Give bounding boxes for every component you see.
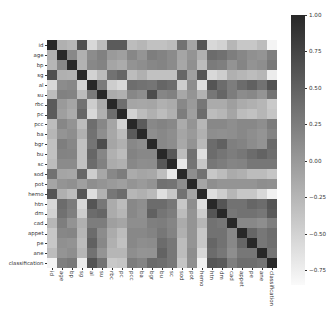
heatmap-cell [187,179,197,189]
heatmap-cell [147,149,157,159]
heatmap-cell [257,228,267,238]
heatmap-cell [97,218,107,228]
heatmap-cell [227,109,237,119]
heatmap-cell [67,70,77,80]
heatmap-cell [197,179,207,189]
heatmap-cell [167,248,177,258]
heatmap-cell [167,209,177,219]
heatmap-cell [187,99,197,109]
heatmap-cell [187,60,197,70]
heatmap-cell [257,258,267,268]
colorbar-tick-mark [305,15,307,16]
x-tick-mark [62,268,63,270]
heatmap-cell [167,228,177,238]
heatmap-cell [267,60,277,70]
heatmap-cell [217,169,227,179]
heatmap-cell [147,159,157,169]
heatmap-cell [177,189,187,199]
heatmap-cell [197,209,207,219]
heatmap-cell [57,60,67,70]
heatmap-cell [107,179,117,189]
heatmap-cell [227,149,237,159]
heatmap-cell [127,50,137,60]
y-tick-label: pot [35,181,47,187]
heatmap-cell [137,119,147,129]
y-tick-label: pcc [34,121,47,127]
heatmap-cell [217,70,227,80]
heatmap-cell [217,189,227,199]
heatmap-cell [137,238,147,248]
heatmap-cell [157,199,167,209]
heatmap-cell [57,80,67,90]
heatmap-cell [87,179,97,189]
heatmap-cell [157,238,167,248]
heatmap-cell [177,218,187,228]
heatmap-cell [47,209,57,219]
heatmap-cell [107,129,117,139]
heatmap-cell [167,40,177,50]
heatmap-cell [47,70,57,80]
heatmap-cell [57,218,67,228]
heatmap-cell [267,199,277,209]
heatmap-cell [237,149,247,159]
y-tick-label: bp [37,62,47,68]
colorbar-tick-mark [305,88,307,89]
heatmap-cell [137,209,147,219]
heatmap-cell [267,40,277,50]
heatmap-cell [147,40,157,50]
heatmap-cell [237,109,247,119]
heatmap-cell [117,209,127,219]
heatmap-cell [147,70,157,80]
heatmap-cell [77,90,87,100]
x-tick-mark [262,268,263,270]
x-tick-label: sg [79,271,85,277]
heatmap-cell [87,199,97,209]
heatmap-cell [197,80,207,90]
heatmap-cell [207,258,217,268]
heatmap-cell [207,119,217,129]
heatmap-cell [227,179,237,189]
heatmap-cell [117,218,127,228]
heatmap-cell [187,129,197,139]
colorbar-tick-mark [305,234,307,235]
heatmap-cell [187,119,197,129]
heatmap-cell [97,90,107,100]
heatmap-cell [227,218,237,228]
heatmap-cell [267,238,277,248]
heatmap-cell [97,119,107,129]
heatmap-cell [237,50,247,60]
colorbar-tick-label: 1.00 [309,12,321,18]
heatmap-cell [87,169,97,179]
heatmap-cell [257,169,267,179]
x-tick-label: pe [249,271,255,278]
heatmap-cell [47,40,57,50]
heatmap-cell [227,199,237,209]
heatmap-cell [47,218,57,228]
x-tick-label: appet [239,271,245,287]
heatmap-cell [217,179,227,189]
heatmap-cell [187,109,197,119]
heatmap-cell [187,169,197,179]
heatmap-cell [207,139,217,149]
heatmap-cell [207,179,217,189]
x-tick-mark [202,268,203,270]
heatmap-cell [147,139,157,149]
heatmap-cell [247,40,257,50]
heatmap-cell [167,189,177,199]
heatmap-cell [197,199,207,209]
colorbar [291,15,305,285]
heatmap-cell [107,159,117,169]
heatmap-cell [127,218,137,228]
heatmap-cell [147,218,157,228]
colorbar-tick-mark [305,51,307,52]
heatmap-cell [187,159,197,169]
heatmap-cell [177,40,187,50]
heatmap-cell [197,228,207,238]
heatmap-cell [177,119,187,129]
heatmap-cell [237,169,247,179]
heatmap-cell [107,40,117,50]
heatmap-cell [207,109,217,119]
heatmap-cell [237,179,247,189]
heatmap-cell [97,60,107,70]
heatmap-cell [87,50,97,60]
